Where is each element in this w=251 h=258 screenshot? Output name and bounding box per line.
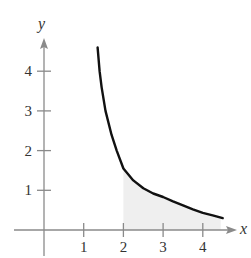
y-tick-label: 4 [25, 63, 33, 79]
shaded-area [123, 168, 220, 230]
chart-plot: 1234 1234 x y [0, 0, 251, 258]
y-axis-label: y [36, 15, 46, 33]
y-tick-label: 1 [25, 182, 33, 198]
x-tick-label: 1 [80, 239, 88, 255]
x-tick-label: 2 [120, 239, 128, 255]
function-curve [98, 47, 223, 218]
x-axis-label: x [239, 220, 247, 237]
y-tick-label: 3 [25, 103, 33, 119]
x-tick-label: 4 [199, 239, 207, 255]
x-tick-label: 3 [159, 239, 167, 255]
y-tick-label: 2 [25, 143, 33, 159]
